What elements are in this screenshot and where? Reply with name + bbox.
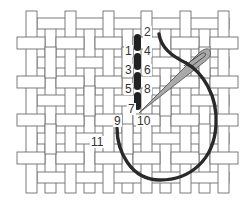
stitch-3-4 bbox=[134, 53, 141, 70]
stitch-column bbox=[134, 34, 141, 110]
label-2: 2 bbox=[143, 26, 152, 38]
label-1: 1 bbox=[124, 45, 133, 57]
label-5: 5 bbox=[124, 83, 133, 95]
label-7: 7 bbox=[127, 103, 136, 115]
label-11: 11 bbox=[90, 136, 104, 148]
label-4: 4 bbox=[143, 45, 152, 57]
label-9: 9 bbox=[113, 115, 122, 127]
label-3: 3 bbox=[124, 64, 133, 76]
label-6: 6 bbox=[143, 64, 152, 76]
label-8: 8 bbox=[143, 83, 152, 95]
needlepoint-diagram bbox=[0, 0, 252, 207]
stitch-1-2 bbox=[134, 34, 141, 51]
stitch-5-6 bbox=[134, 72, 141, 90]
label-10: 10 bbox=[136, 115, 151, 127]
